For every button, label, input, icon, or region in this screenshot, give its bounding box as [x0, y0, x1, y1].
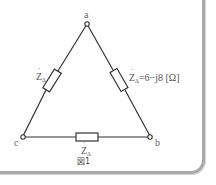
impedance-symbol: ˙Z [36, 72, 42, 82]
left-impedance-label: ˙ZΔ [36, 72, 46, 85]
terminal-b-icon [148, 135, 152, 139]
impedance-symbol: ˙Z [129, 73, 135, 83]
impedance-symbol: ˙Z [81, 146, 87, 156]
right-impedance-resistor [110, 68, 128, 91]
terminal-a-icon [85, 22, 89, 26]
bottom-impedance-resistor [76, 133, 98, 141]
left-branch [23, 24, 87, 136]
node-label-b: b [155, 138, 160, 148]
delta-circuit [0, 0, 216, 185]
diagram-canvas: a c b ˙ZΔ ˙ZΔ=6−j8 [Ω] ˙ZΔ 図1 [0, 0, 216, 185]
right-impedance-label: ˙ZΔ=6−j8 [Ω] [129, 73, 180, 86]
bottom-branch [23, 133, 150, 141]
node-label-c: c [14, 138, 18, 148]
impedance-value: =6−j8 [Ω] [139, 72, 180, 83]
terminal-c-icon [21, 135, 25, 139]
figure-caption: 図1 [77, 157, 90, 166]
node-label-a: a [84, 10, 88, 20]
